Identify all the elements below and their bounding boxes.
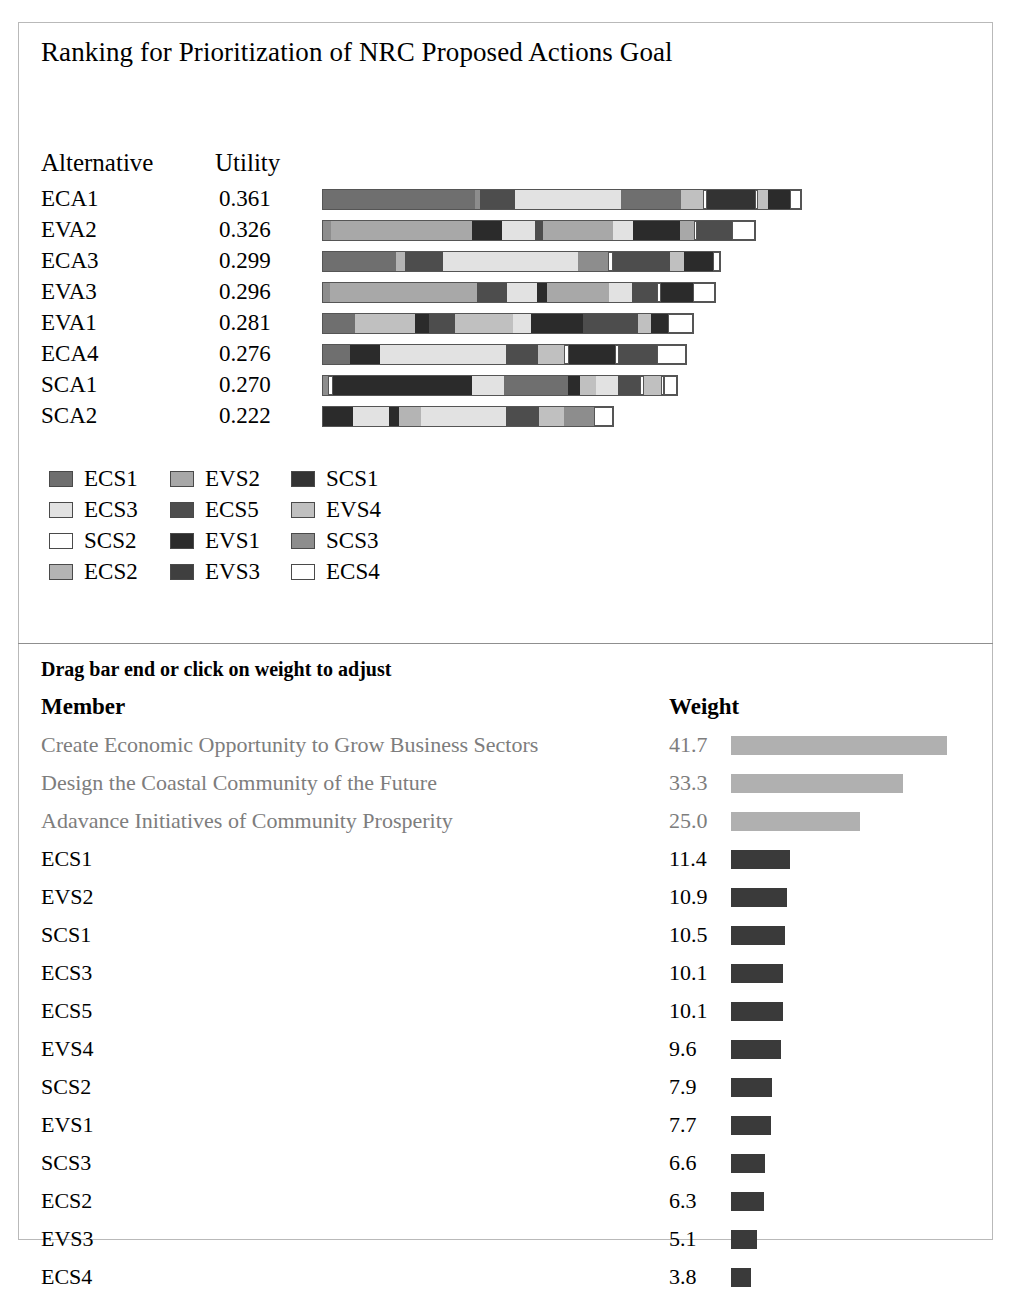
stacked-utility-bar[interactable] (322, 189, 802, 210)
legend-label: ECS5 (205, 498, 259, 521)
legend-label: EVS3 (205, 560, 260, 583)
page-title: Ranking for Prioritization of NRC Propos… (41, 37, 673, 68)
bar-segment-ecs5 (583, 314, 638, 333)
legend-item-scs1[interactable]: SCS1 (291, 467, 412, 490)
bar-segment-ecs5 (506, 407, 539, 426)
bar-segment-ecs3 (613, 221, 633, 240)
column-header-weight: Weight (669, 694, 739, 720)
legend-swatch-ecs2 (49, 564, 73, 580)
weight-value[interactable]: 6.3 (669, 1186, 697, 1216)
weight-bar[interactable] (731, 1116, 771, 1135)
legend-swatch-evs3 (170, 564, 194, 580)
bar-segment-ecs5 (613, 252, 670, 271)
legend-swatch-evs4 (291, 502, 315, 518)
bar-segment-scs3 (323, 283, 330, 302)
bar-segment-evs1 (472, 221, 502, 240)
legend-item-evs1[interactable]: EVS1 (170, 529, 291, 552)
legend-label: SCS1 (326, 467, 378, 490)
stacked-utility-bar[interactable] (322, 251, 721, 272)
weight-bar[interactable] (731, 1154, 765, 1173)
legend-item-ecs1[interactable]: ECS1 (49, 467, 170, 490)
weight-value[interactable]: 10.1 (669, 958, 708, 988)
bar-segment-ecs5 (618, 376, 640, 395)
bar-segment-evs1 (684, 252, 713, 271)
bar-segment-ecs3 (507, 283, 537, 302)
legend-item-ecs5[interactable]: ECS5 (170, 498, 291, 521)
bar-segment-evs1 (569, 345, 615, 364)
bar-segment-ecs1 (621, 190, 681, 209)
bar-segment-evs2 (330, 283, 477, 302)
weight-bar[interactable] (731, 926, 785, 945)
weight-value[interactable]: 7.9 (669, 1072, 697, 1102)
legend-item-ecs3[interactable]: ECS3 (49, 498, 170, 521)
legend-item-evs4[interactable]: EVS4 (291, 498, 412, 521)
legend-row: SCS2EVS1SCS3 (49, 525, 412, 556)
weight-value[interactable]: 3.8 (669, 1262, 697, 1291)
weight-bar[interactable] (731, 964, 783, 983)
stacked-utility-bar[interactable] (322, 344, 687, 365)
weight-bar[interactable] (731, 1192, 764, 1211)
stacked-utility-bar[interactable] (322, 282, 716, 303)
weight-bar[interactable] (731, 736, 947, 755)
bar-segment-ecs3 (380, 345, 506, 364)
weight-value[interactable]: 10.1 (669, 996, 708, 1026)
stacked-utility-bar[interactable] (322, 313, 694, 334)
stacked-utility-bar[interactable] (322, 375, 678, 396)
bar-segment-ecs5 (429, 314, 455, 333)
bar-segment-ecs3 (596, 376, 618, 395)
weight-bar[interactable] (731, 1002, 783, 1021)
ranking-panel: Ranking for Prioritization of NRC Propos… (19, 23, 992, 643)
weight-member-name: EVS4 (41, 1034, 94, 1064)
bar-segment-ecs5 (535, 221, 543, 240)
weight-member-name: EVS1 (41, 1110, 94, 1140)
chart-legend: ECS1EVS2SCS1ECS3ECS5EVS4SCS2EVS1SCS3ECS2… (49, 463, 412, 587)
weight-bar[interactable] (731, 1078, 772, 1097)
legend-item-ecs2[interactable]: ECS2 (49, 560, 170, 583)
bar-segment-scs1 (707, 190, 755, 209)
bar-segment-evs4 (758, 190, 768, 209)
utility-value: 0.281 (219, 310, 271, 336)
application-frame: Ranking for Prioritization of NRC Propos… (18, 22, 993, 1240)
legend-item-scs2[interactable]: SCS2 (49, 529, 170, 552)
weight-member-name: Adavance Initiatives of Community Prospe… (41, 806, 453, 836)
legend-item-evs3[interactable]: EVS3 (170, 560, 291, 583)
legend-swatch-evs2 (170, 471, 194, 487)
utility-value: 0.361 (219, 186, 271, 212)
weight-value[interactable]: 25.0 (669, 806, 708, 836)
bar-segment-scs2 (790, 190, 801, 209)
weight-value[interactable]: 10.9 (669, 882, 708, 912)
weight-value[interactable]: 41.7 (669, 730, 708, 760)
weight-member-name: ECS5 (41, 996, 92, 1026)
weight-bar[interactable] (731, 1040, 781, 1059)
bar-segment-evs1 (661, 283, 693, 302)
bar-segment-evs1 (651, 314, 668, 333)
alternative-label: EVA2 (41, 217, 97, 243)
weight-value[interactable]: 10.5 (669, 920, 708, 950)
weight-bar[interactable] (731, 1268, 751, 1287)
bar-segment-evs2 (680, 221, 694, 240)
legend-item-evs2[interactable]: EVS2 (170, 467, 291, 490)
weight-bar[interactable] (731, 1230, 757, 1249)
weight-bar[interactable] (731, 850, 790, 869)
weight-value[interactable]: 33.3 (669, 768, 708, 798)
bar-segment-scs3 (323, 221, 331, 240)
bar-segment-ecs1 (323, 345, 350, 364)
legend-swatch-ecs5 (170, 502, 194, 518)
weight-bar[interactable] (731, 888, 787, 907)
legend-item-scs3[interactable]: SCS3 (291, 529, 412, 552)
legend-item-ecs4[interactable]: ECS4 (291, 560, 412, 583)
weight-value[interactable]: 9.6 (669, 1034, 697, 1064)
bar-segment-evs4 (580, 376, 596, 395)
weight-value[interactable]: 11.4 (669, 844, 707, 874)
weight-value[interactable]: 5.1 (669, 1224, 697, 1254)
stacked-utility-bar[interactable] (322, 406, 614, 427)
weight-value[interactable]: 7.7 (669, 1110, 697, 1140)
stacked-utility-bar[interactable] (322, 220, 756, 241)
bar-segment-evs1 (768, 190, 790, 209)
weight-bar[interactable] (731, 812, 860, 831)
legend-swatch-ecs1 (49, 471, 73, 487)
weight-value[interactable]: 6.6 (669, 1148, 697, 1178)
weight-bar[interactable] (731, 774, 903, 793)
bar-segment-ecs3 (421, 407, 506, 426)
weight-member-name: ECS4 (41, 1262, 92, 1291)
